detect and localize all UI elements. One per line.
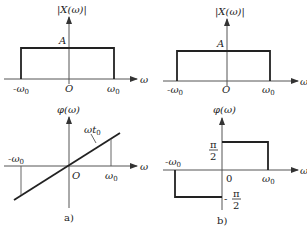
phase-y-label: φ(ω) [57, 104, 80, 115]
tick-neg-omega0: -ω0 [167, 84, 183, 97]
tick-pos-omega0: ω0 [262, 173, 275, 186]
svg-text:π: π [233, 188, 240, 199]
panel-b: |X(ω)| A ω -ω0 O ω0 φ(ω) π 2 - π [163, 6, 307, 226]
level-label-a: A [58, 35, 66, 46]
pos-pi-over-2-label: π 2 [209, 139, 218, 162]
svg-text:2: 2 [210, 151, 216, 162]
tick-neg-omega0: -ω0 [165, 156, 181, 169]
tick-origin: O [65, 83, 73, 94]
tick-origin: O [72, 170, 80, 181]
slope-label: ωt0 [84, 124, 101, 137]
panel-a-magnitude-plot: |X(ω)| A ω -ω0 O ω0 [4, 4, 148, 96]
magnitude-y-label: |X(ω)| [57, 4, 87, 16]
positive-phase-step [222, 142, 268, 170]
magnitude-rect [21, 48, 114, 79]
tick-neg-omega0: -ω0 [13, 83, 29, 96]
neg-pi-over-2-label: - π 2 [224, 188, 241, 211]
panel-b-phase-plot: φ(ω) π 2 - π 2 ω -ω0 0 ω0 [163, 104, 307, 211]
caption-a: a) [64, 212, 74, 223]
negative-phase-step [175, 170, 222, 197]
tick-pos-omega0: ω0 [107, 83, 120, 96]
omega-axis-label: ω [140, 74, 148, 85]
svg-text:π: π [210, 139, 217, 150]
figure: |X(ω)| A ω -ω0 O ω0 φ(ω) ωt0 ω -ω0 O ω0 … [0, 0, 307, 234]
magnitude-rect [177, 51, 270, 81]
panel-a-phase-plot: φ(ω) ωt0 ω -ω0 O ω0 [4, 104, 148, 208]
magnitude-y-label: |X(ω)| [215, 6, 245, 18]
tick-origin: 0 [226, 173, 232, 184]
panel-b-magnitude-plot: |X(ω)| A ω -ω0 O ω0 [163, 6, 307, 97]
tick-neg-omega0: -ω0 [8, 153, 24, 166]
tick-origin: O [222, 84, 230, 95]
svg-text:-: - [224, 193, 227, 204]
phase-y-label: φ(ω) [213, 104, 236, 115]
level-label-a: A [216, 38, 224, 49]
omega-axis-label: ω [140, 161, 148, 172]
caption-b: b) [217, 215, 227, 226]
panel-a: |X(ω)| A ω -ω0 O ω0 φ(ω) ωt0 ω -ω0 O ω0 … [4, 4, 148, 223]
tick-pos-omega0: ω0 [105, 170, 118, 183]
tick-pos-omega0: ω0 [262, 84, 275, 97]
omega-axis-label: ω [300, 76, 307, 87]
svg-text:2: 2 [233, 200, 239, 211]
omega-axis-label: ω [300, 165, 307, 176]
